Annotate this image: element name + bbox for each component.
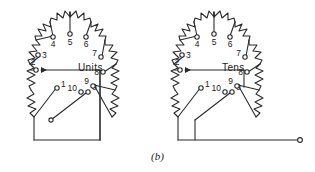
dial-label-units: Units	[78, 62, 103, 73]
terminal-label-units-1: 1	[61, 79, 66, 89]
terminal-label-units-9: 9	[84, 76, 89, 86]
terminal-units-10[interactable]	[79, 90, 83, 94]
terminal-label-tens-6: 6	[228, 39, 233, 49]
figure-caption: (b)	[0, 150, 315, 162]
terminal-tens-7[interactable]	[243, 55, 247, 59]
units-spokes	[30, 12, 116, 117]
terminal-label-tens-3: 3	[186, 50, 191, 60]
terminal-label-units-3: 3	[42, 50, 47, 60]
terminal-units-7[interactable]	[99, 55, 103, 59]
terminal-units-1[interactable]	[55, 86, 59, 90]
terminal-label-tens-2: 2	[175, 57, 180, 67]
terminal-label-units-7: 7	[92, 48, 97, 58]
dial-label-tens: Tens	[222, 62, 245, 73]
schematic-svg: 0 1 2 3 4 5 6 7 8 9	[0, 0, 315, 150]
terminal-tens-8[interactable]	[245, 70, 249, 74]
terminal-label-units-2: 2	[31, 57, 36, 67]
units-wiper-pivot[interactable]	[49, 118, 53, 122]
units-wiper-arm[interactable]	[51, 93, 86, 120]
terminal-label-tens-4: 4	[195, 39, 200, 49]
terminal-label-tens-9: 9	[228, 76, 233, 86]
tens-wiper-arm[interactable]	[195, 93, 230, 120]
terminal-units-0[interactable]	[86, 90, 90, 94]
terminal-tens-10[interactable]	[223, 90, 227, 94]
terminal-tens-5[interactable]	[212, 32, 216, 36]
dial-tens[interactable]	[171, 11, 300, 140]
tens-spokes	[174, 12, 260, 117]
terminal-label-units-4: 4	[51, 39, 56, 49]
terminal-units-3[interactable]	[36, 53, 40, 57]
terminal-label-tens-7: 7	[236, 48, 241, 58]
terminal-label-tens-10: 10	[212, 83, 222, 93]
output-terminal[interactable]	[298, 138, 303, 143]
terminal-tens-0[interactable]	[230, 90, 234, 94]
terminal-units-9[interactable]	[91, 84, 95, 88]
tens-resistor-arc	[171, 11, 263, 117]
figure-container: 0 1 2 3 4 5 6 7 8 9	[0, 0, 315, 172]
terminals-layer: 0 1 2 3 4 5 6 7 8 9	[31, 32, 303, 143]
units-resistor-arc	[27, 11, 119, 117]
terminal-tens-3[interactable]	[180, 53, 184, 57]
terminal-label-units-10: 10	[68, 83, 78, 93]
terminal-units-5[interactable]	[68, 32, 72, 36]
dial-units[interactable]	[27, 11, 119, 140]
terminal-tens-9[interactable]	[235, 84, 239, 88]
terminal-label-tens-5: 5	[212, 37, 217, 47]
terminal-label-units-6: 6	[84, 39, 89, 49]
terminal-tens-2[interactable]	[178, 68, 182, 72]
terminal-label-units-5: 5	[68, 37, 73, 47]
terminal-units-2[interactable]	[34, 68, 38, 72]
terminal-label-tens-1: 1	[205, 79, 210, 89]
terminal-tens-1[interactable]	[199, 86, 203, 90]
